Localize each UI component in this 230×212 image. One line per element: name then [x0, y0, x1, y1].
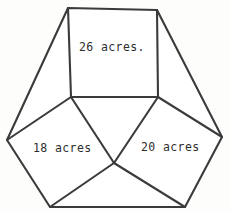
right-plot-label: 20 acres — [141, 142, 200, 154]
left-plot-label: 18 acres — [33, 143, 92, 155]
land-plot-svg — [0, 0, 230, 212]
land-plot-figure: 26 acres. 18 acres 20 acres — [0, 0, 230, 212]
top-plot-label: 26 acres. — [79, 42, 145, 54]
